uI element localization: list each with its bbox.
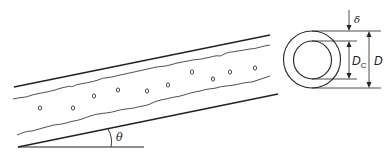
angle-arc [108,129,112,147]
pipe-diameter-arrowhead-bottom [367,82,372,88]
gas-core-circle [294,41,332,79]
core-diameter-subscript: C [361,61,367,70]
droplet [145,89,148,93]
droplet [211,77,214,81]
droplet [253,66,256,70]
droplet [166,83,169,87]
film-thickness-label: δ [354,14,360,25]
core-diameter-symbol: D [352,54,361,68]
pipe-diameter-label: D [374,54,383,68]
droplet [92,94,95,98]
film-thickness-arrowhead [347,25,352,31]
droplet [228,70,231,74]
pipe-bottom-wall [18,94,278,147]
annular-flow-diagram: θ δ DC D [0,0,392,160]
core-diameter-arrowhead-top [347,41,352,47]
pipe-top-wall [14,35,270,87]
core-diameter-label: DC [352,54,367,70]
droplet [71,106,74,110]
pipe-cross-section [284,10,382,88]
droplet [38,106,41,110]
droplet [116,88,119,92]
core-diameter-arrowhead-bottom [347,73,352,79]
entrained-droplets [38,66,256,110]
pipe-diameter-arrowhead-top [367,31,372,37]
lower-film-interface [17,76,270,135]
angle-theta-label: θ [116,131,123,144]
droplet [190,70,193,74]
